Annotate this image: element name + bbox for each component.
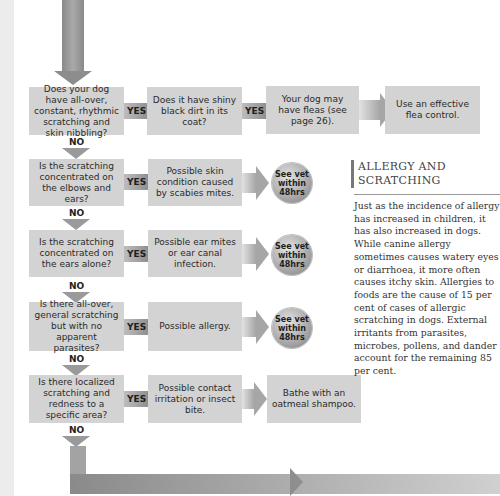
badge-arrow-4 <box>242 310 269 344</box>
question-text-3: Is the scratching concentrated on the ea… <box>33 237 120 270</box>
vet-badge-4: See vet within 48hrs <box>272 308 312 348</box>
sidebar-body: Just as the incidence of allergy has inc… <box>354 200 500 378</box>
action-arrow-5 <box>242 382 267 416</box>
question-box-1: Does your dog have all-over, constant, r… <box>29 87 124 135</box>
vet-badge-3: See vet within 48hrs <box>272 235 312 275</box>
yes-label-1b: YES <box>245 106 264 116</box>
question-box-2: Is the scratching concentrated on the el… <box>29 159 124 206</box>
vet-badge-text-3: See vet within 48hrs <box>272 242 312 269</box>
sidebar-title-line2: SCRATCHING <box>358 174 498 188</box>
question-text-4: Is there all-over, general scratching bu… <box>33 299 120 354</box>
no-arrow-1 <box>62 148 90 159</box>
sidebar-title-line1: ALLERGY AND <box>358 160 498 174</box>
vet-badge-text-2: See vet within 48hrs <box>272 170 312 197</box>
vet-badge-2: See vet within 48hrs <box>272 163 312 203</box>
result-box-5: Possible contact irritation or insect bi… <box>148 375 242 423</box>
result-box-4: Possible allergy. <box>148 302 242 351</box>
result-text-2: Possible skin condition caused by scabie… <box>152 166 238 199</box>
question-text-2: Is the scratching concentrated on the el… <box>33 161 120 205</box>
result-text-3: Possible ear mites or ear canal infectio… <box>152 237 238 270</box>
sidebar-title: ALLERGY AND SCRATCHING <box>351 160 498 188</box>
result-text-5: Possible contact irritation or insect bi… <box>152 383 238 416</box>
action-text-1: Use an effective flea control. <box>389 99 476 121</box>
entry-arrow-shaft <box>62 0 84 72</box>
yes-label-5: YES <box>127 394 146 404</box>
action-box-1: Use an effective flea control. <box>385 86 480 134</box>
yes-label-1: YES <box>127 106 146 116</box>
exit-arrow-bar <box>70 474 500 494</box>
result-text-4: Possible allergy. <box>159 321 230 332</box>
yes-label-3: YES <box>127 249 146 259</box>
question-box-5: Is there localized scratching and rednes… <box>29 375 124 423</box>
no-label-1: NO <box>69 137 84 147</box>
page-edge-strip <box>0 0 14 496</box>
no-label-4: NO <box>69 354 84 364</box>
vet-badge-text-4: See vet within 48hrs <box>272 315 312 342</box>
no-label-5: NO <box>69 425 84 435</box>
exit-arrow-head <box>290 468 303 496</box>
no-arrow-2 <box>62 219 90 230</box>
question-text-1: Does your dog have all-over, constant, r… <box>33 84 120 139</box>
question-box-3: Is the scratching concentrated on the ea… <box>29 230 124 277</box>
result-box-2: Possible skin condition caused by scabie… <box>148 159 242 206</box>
badge-arrow-3 <box>242 237 269 271</box>
sidebar-divider <box>354 194 500 195</box>
yes-label-4: YES <box>127 322 146 332</box>
result-box-3: Possible ear mites or ear canal infectio… <box>148 230 242 277</box>
action-box-5: Bathe with an oatmeal shampoo. <box>267 375 361 423</box>
action-text-5: Bathe with an oatmeal shampoo. <box>271 388 357 410</box>
result-box-1: Does it have shiny black dirt in its coa… <box>147 87 242 135</box>
badge-arrow-2 <box>242 166 269 200</box>
result-text-1: Does it have shiny black dirt in its coa… <box>151 95 238 128</box>
no-label-2: NO <box>69 208 84 218</box>
yes-label-2: YES <box>127 177 146 187</box>
followup-box-1: Your dog may have fleas (see page 26). <box>266 86 359 134</box>
question-box-4: Is there all-over, general scratching bu… <box>29 302 124 351</box>
no-label-3: NO <box>69 281 84 291</box>
followup-text-1: Your dog may have fleas (see page 26). <box>270 94 355 127</box>
question-text-5: Is there localized scratching and rednes… <box>33 377 120 421</box>
